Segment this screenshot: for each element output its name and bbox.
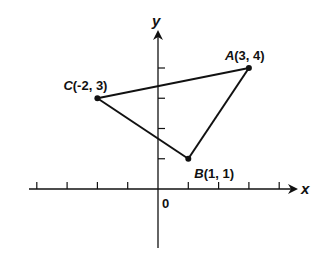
point-c-label: C(-2, 3) [63,78,107,93]
point-b-label: B(1, 1) [194,166,234,181]
origin-label: 0 [162,196,169,211]
x-axis-label: x [300,180,310,197]
point-a-dot-icon [246,65,252,71]
triangle-abc [97,68,249,159]
segment-ab [188,68,249,159]
y-axis-ticks [158,68,165,159]
coordinate-plane-figure: x y 0 A(3, 4)B(1, 1)C(-2, 3) [0,0,328,260]
diagram-canvas: x y 0 A(3, 4)B(1, 1)C(-2, 3) [0,0,328,260]
segment-ca [97,68,249,98]
segment-bc [97,98,188,159]
point-a-label: A(3, 4) [224,48,265,63]
y-axis-label: y [151,12,161,29]
point-c-dot-icon [94,95,100,101]
point-b-dot-icon [185,156,191,162]
triangle-vertices [94,65,252,162]
